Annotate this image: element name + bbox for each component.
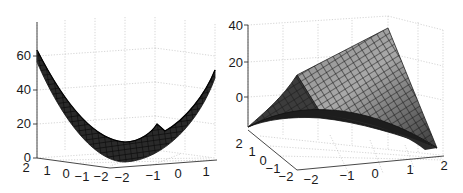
right-z-tick-20: 20 <box>229 55 243 70</box>
right-y-tick: 1 <box>248 144 255 159</box>
left-x-tick: −2 <box>115 170 130 185</box>
right-y-tick: −2 <box>279 169 294 184</box>
right-x-tick: −1 <box>340 168 355 183</box>
figure: 0 20 40 60 2 1 0 −1 −2 −2 −1 0 1 <box>0 0 463 193</box>
left-x-tick: 1 <box>202 164 209 179</box>
right-x-tick: 0 <box>371 166 378 181</box>
left-y-tick: 1 <box>43 163 50 178</box>
right-z-tick-0: 0 <box>236 90 243 105</box>
left-surface-plot: 0 20 40 60 2 1 0 −1 −2 −2 −1 0 1 <box>17 17 217 185</box>
right-x-tick: −2 <box>304 172 319 187</box>
left-y-tick: 0 <box>62 166 69 181</box>
left-z-ticks: 0 20 40 60 <box>17 48 37 165</box>
right-surface-plot: 40 20 0 2 1 0 −1 −2 −2 −1 0 1 2 <box>229 16 448 187</box>
left-x-tick: 0 <box>174 166 181 181</box>
right-y-tick: 2 <box>235 136 242 151</box>
left-y-ticks: 2 1 0 −1 −2 <box>22 160 108 184</box>
right-x-tick: 2 <box>440 158 447 173</box>
left-z-tick-40: 40 <box>17 82 31 97</box>
left-y-tick: 2 <box>22 160 29 175</box>
left-x-ticks: −2 −1 0 1 <box>115 164 210 185</box>
right-z-ticks: 40 20 0 <box>229 18 248 105</box>
right-x-tick: 1 <box>406 162 413 177</box>
left-z-tick-20: 20 <box>17 116 31 131</box>
left-x-tick: −1 <box>146 168 161 183</box>
left-bowl-surface <box>37 50 215 162</box>
left-y-tick: −2 <box>94 169 109 184</box>
left-z-tick-60: 60 <box>17 48 31 63</box>
left-y-tick: −1 <box>75 169 90 184</box>
right-z-tick-40: 40 <box>229 18 243 33</box>
